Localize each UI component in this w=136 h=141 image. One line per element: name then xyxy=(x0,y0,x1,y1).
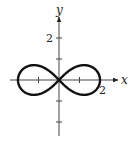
lemniscate-chart: y x 2 2 xyxy=(0,0,136,141)
x-tick-label-2: 2 xyxy=(99,84,106,97)
y-tick-label-2: 2 xyxy=(46,32,53,45)
x-axis-label: x xyxy=(121,73,128,87)
y-axis-label: y xyxy=(55,3,63,17)
